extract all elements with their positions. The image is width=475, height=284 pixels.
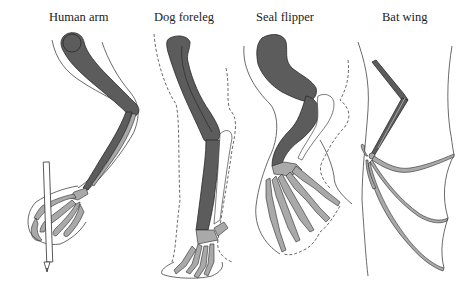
seal-flipper-bones bbox=[266, 166, 340, 252]
homology-diagram: .dark { fill: #5c5c5c; stroke: #2a2a2a; … bbox=[0, 0, 475, 284]
human-arm-figure bbox=[28, 33, 139, 272]
dog-humerus bbox=[167, 36, 220, 142]
pencil-icon bbox=[43, 162, 52, 272]
seal-flipper-figure bbox=[244, 35, 352, 255]
bat-wing-bones bbox=[361, 144, 454, 271]
bat-humerus bbox=[372, 60, 408, 100]
bat-wing-figure bbox=[358, 42, 454, 276]
human-hand-bones bbox=[31, 188, 88, 241]
human-forearm bbox=[83, 112, 132, 190]
dog-foreleg-figure bbox=[154, 34, 236, 278]
seal-humerus bbox=[257, 35, 317, 102]
dog-paw-bones bbox=[174, 222, 228, 278]
seal-forearm bbox=[272, 96, 319, 166]
